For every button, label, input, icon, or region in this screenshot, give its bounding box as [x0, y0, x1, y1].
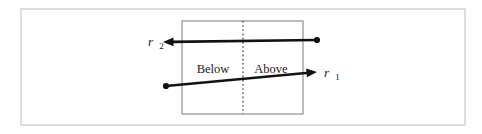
- ray-label-r2-subscript: 2: [159, 41, 164, 51]
- figure-container: Below Above r2 r1: [0, 0, 482, 134]
- region-label-below: Below: [197, 62, 230, 76]
- ray-r2-origin-dot: [314, 37, 320, 43]
- ray-r1-origin-dot: [163, 83, 169, 89]
- ray-region-diagram: Below Above r2 r1: [0, 0, 482, 134]
- ray-label-r1-subscript: 1: [335, 72, 340, 82]
